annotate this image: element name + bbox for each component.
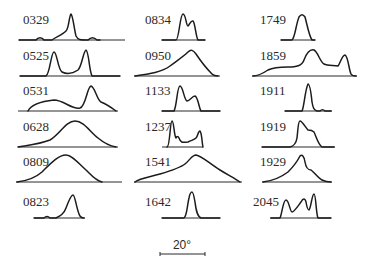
panel-label: 1911 — [260, 83, 286, 98]
panel-label: 1642 — [145, 194, 171, 209]
panel-label: 0525 — [23, 48, 49, 63]
panel-0329: 0329 — [19, 12, 125, 40]
panel-0525: 0525 — [20, 48, 120, 76]
figure-canvas: 0329052505310628080908230834095011331237… — [0, 0, 372, 273]
panel-1929: 1929 — [260, 154, 332, 182]
panel-group: 0329052505310628080908230834095011331237… — [16, 12, 357, 218]
scale-bar: 20° — [160, 238, 205, 256]
panel-label: 1859 — [260, 48, 286, 63]
panel-0531: 0531 — [18, 83, 118, 111]
panel-label: 1929 — [260, 154, 286, 169]
panel-0628: 0628 — [18, 119, 118, 147]
distribution-curve — [167, 121, 203, 147]
panel-0950: 0950 — [134, 48, 220, 76]
panel-label: 0531 — [23, 83, 49, 98]
panel-label: 0823 — [23, 194, 49, 209]
distribution-curve — [162, 86, 220, 111]
panel-1237: 1237 — [145, 119, 203, 147]
panel-1541: 1541 — [134, 154, 242, 182]
distribution-curve — [281, 15, 315, 40]
panel-0809: 0809 — [16, 154, 122, 182]
panel-label: 0950 — [145, 48, 171, 63]
panel-0834: 0834 — [145, 12, 205, 40]
panel-label: 1237 — [145, 119, 172, 134]
panel-label: 1749 — [260, 12, 286, 27]
panel-1133: 1133 — [145, 83, 220, 111]
distribution-curve — [285, 84, 331, 111]
panel-0823: 0823 — [23, 194, 85, 218]
panel-label: 0809 — [23, 154, 49, 169]
panel-1642: 1642 — [145, 192, 220, 218]
panel-label: 0628 — [23, 119, 49, 134]
panel-1911: 1911 — [260, 83, 332, 111]
panel-label: 1919 — [260, 119, 286, 134]
panel-label: 1133 — [145, 83, 171, 98]
scale-bar-label: 20° — [173, 238, 191, 252]
panel-1919: 1919 — [260, 119, 335, 147]
panel-label: 0834 — [145, 12, 172, 27]
panel-label: 2045 — [253, 194, 279, 209]
panel-label: 1541 — [145, 154, 171, 169]
panel-1749: 1749 — [260, 12, 315, 40]
distribution-curve — [271, 194, 331, 218]
panel-label: 0329 — [23, 12, 49, 27]
panel-2045: 2045 — [253, 194, 331, 218]
panel-1859: 1859 — [252, 48, 357, 76]
